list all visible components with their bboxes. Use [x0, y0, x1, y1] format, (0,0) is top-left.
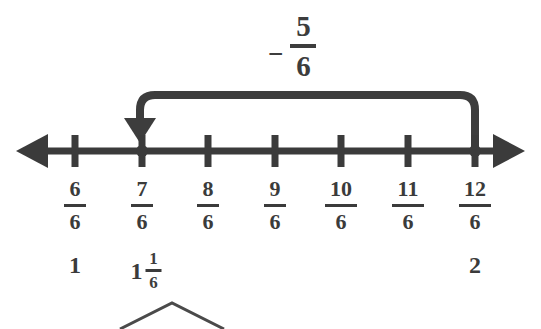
number-line-figure: − 5 6 6 [0, 0, 541, 329]
chevron-caret-icon [0, 0, 541, 329]
chevron-caret-path [120, 303, 224, 329]
